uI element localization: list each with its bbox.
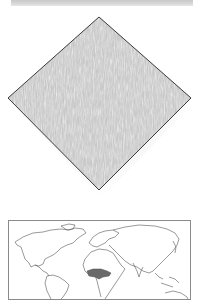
world-map bbox=[9, 221, 191, 300]
australia-outline bbox=[165, 291, 189, 300]
south-america-outline bbox=[45, 275, 69, 300]
distribution-map bbox=[8, 220, 191, 300]
asia-outline bbox=[109, 225, 179, 273]
central-america-outline bbox=[35, 265, 49, 276]
specimen-swatch bbox=[0, 0, 202, 200]
highlighted-range bbox=[87, 269, 111, 279]
europe-outline bbox=[89, 230, 119, 247]
north-america-outline bbox=[15, 228, 86, 267]
southeast-asia-outline bbox=[155, 273, 179, 287]
india-outline bbox=[133, 263, 143, 277]
